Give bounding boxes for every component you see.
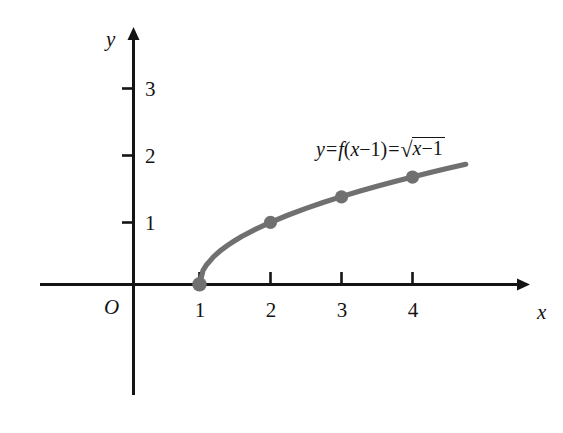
- radicand-variable: x: [413, 137, 422, 159]
- y-tick-label-1: 1: [145, 213, 175, 234]
- sqrt-function-curve: [200, 164, 466, 284]
- equation-equals-2: =: [387, 138, 400, 160]
- data-point-2: [264, 216, 277, 229]
- equation-equals-1: =: [325, 138, 338, 160]
- x-tick-label-2: 2: [256, 300, 286, 321]
- y-tick-label-2: 2: [145, 146, 175, 167]
- y-axis-arrowhead: [128, 27, 140, 40]
- function-curve: [200, 164, 466, 284]
- y-axis-label: y: [106, 29, 115, 50]
- graph-plot-area: [0, 0, 563, 433]
- data-point-3: [335, 190, 348, 203]
- equation-arg-variable: x: [350, 138, 359, 160]
- data-points: [192, 170, 419, 291]
- equation-arg-minus-one: −1: [359, 138, 380, 160]
- x-axis-label: x: [537, 302, 546, 323]
- y-tick-label-3: 3: [145, 79, 175, 100]
- x-axis-ticks: [200, 272, 413, 284]
- x-tick-label-1: 1: [185, 300, 215, 321]
- x-tick-label-3: 3: [327, 300, 357, 321]
- radicand-minus-one: −1: [422, 137, 443, 159]
- data-point-4: [406, 170, 419, 183]
- equation-annotation: y=f(x−1)=√x−1: [316, 138, 445, 160]
- origin-label: O: [104, 297, 119, 318]
- equation-radical: √x−1: [401, 138, 445, 160]
- equation-lhs-y: y: [316, 138, 325, 160]
- data-point-1: [192, 277, 206, 291]
- radical-radicand: x−1: [412, 137, 445, 158]
- x-axis-arrowhead: [517, 279, 530, 291]
- x-tick-label-4: 4: [398, 300, 428, 321]
- figure-canvas: y x O 1 2 3 [data-name^="y-tick-label-"]…: [0, 0, 563, 433]
